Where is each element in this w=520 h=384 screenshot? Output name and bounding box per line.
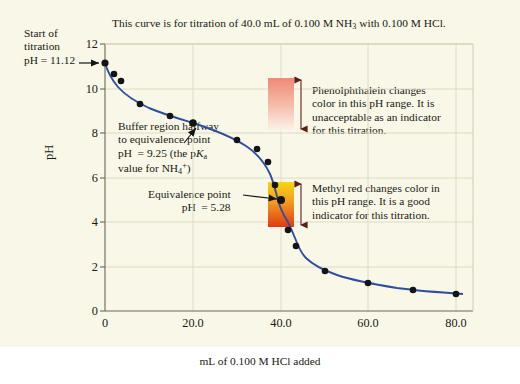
phenolphthalein-range-swatch	[268, 78, 294, 131]
data-point-half-equivalence	[189, 119, 197, 127]
y-tick-4: 4	[72, 215, 98, 230]
x-tick-0: 0	[80, 316, 130, 331]
y-tick-2: 2	[72, 260, 98, 275]
x-tick-60: 60.0	[343, 316, 393, 331]
y-tick-6: 6	[72, 171, 98, 186]
buffer-annotation-arrow	[184, 128, 196, 143]
x-tick-40: 40.0	[256, 316, 306, 331]
data-point-start	[101, 59, 108, 66]
methyl-red-range-swatch	[268, 182, 294, 227]
x-tick-20: 20.0	[168, 316, 218, 331]
y-tick-8: 8	[72, 126, 98, 141]
data-point-equivalence	[277, 196, 285, 204]
y-tick-10: 10	[72, 82, 98, 97]
y-axis-ticks	[100, 44, 105, 311]
x-tick-80: 80.0	[431, 316, 481, 331]
y-tick-12: 12	[72, 37, 98, 52]
